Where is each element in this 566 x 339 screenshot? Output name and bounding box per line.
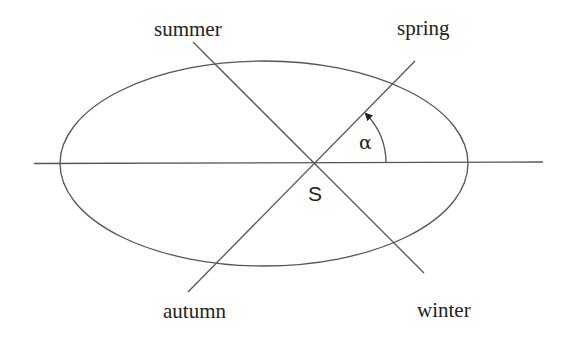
major-axis-line <box>34 162 543 164</box>
label-angle-alpha: α <box>359 131 372 153</box>
spring-autumn-line <box>188 61 415 292</box>
label-winter: winter <box>417 298 471 322</box>
label-summer: summer <box>154 17 222 41</box>
summer-winter-line <box>193 42 424 273</box>
label-sun: S <box>308 182 322 205</box>
orbit-diagram: summer spring autumn winter S α <box>0 0 566 339</box>
label-spring: spring <box>397 16 450 40</box>
label-autumn: autumn <box>163 299 226 323</box>
